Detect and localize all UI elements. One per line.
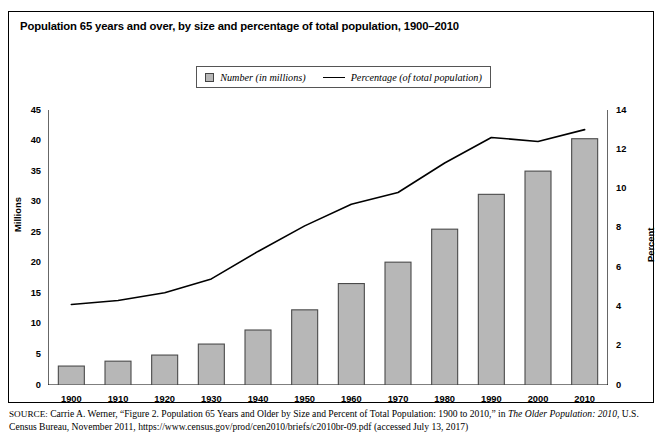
x-axis-tick: 1950 — [285, 394, 325, 404]
legend-label-number: Number (in millions) — [220, 72, 305, 83]
source-prefix: SOURCE: — [9, 409, 48, 419]
chart-legend: Number (in millions) Percentage (of tota… — [196, 66, 491, 88]
figure-screenshot: Population 65 years and over, by size an… — [0, 0, 664, 443]
x-axis-tick: 1970 — [378, 394, 418, 404]
y-axis-right-tick: 6 — [616, 262, 621, 272]
y-axis-right-label: Percent — [645, 228, 656, 262]
legend-swatch-icon — [205, 73, 214, 82]
legend-item-percentage: Percentage (of total population) — [323, 72, 482, 83]
y-axis-left-tick: 0 — [19, 380, 41, 390]
y-axis-right-tick: 10 — [616, 183, 626, 193]
x-axis-tick: 2000 — [518, 394, 558, 404]
y-axis-right-tick: 12 — [616, 144, 626, 154]
x-axis-tick: 1920 — [145, 394, 185, 404]
x-axis-tick: 1980 — [425, 394, 465, 404]
x-axis-tick: 1990 — [471, 394, 511, 404]
page-title: Population 65 years and over, by size an… — [20, 20, 620, 32]
y-axis-right-tick: 0 — [616, 380, 621, 390]
y-axis-left-tick: 25 — [19, 227, 41, 237]
y-axis-right-tick: 8 — [616, 222, 621, 232]
x-axis-tick: 1910 — [98, 394, 138, 404]
y-axis-right-tick: 14 — [616, 105, 626, 115]
x-axis-tick: 1960 — [331, 394, 371, 404]
y-axis-left-tick: 20 — [19, 257, 41, 267]
y-axis-left-tick: 5 — [19, 349, 41, 359]
source-italic-1: The Older Population: — [508, 408, 595, 419]
source-italic-2: 2010 — [598, 408, 617, 419]
chart-plot-area — [48, 110, 608, 385]
x-axis-tick: 1930 — [191, 394, 231, 404]
y-axis-left-tick: 15 — [19, 288, 41, 298]
y-axis-left-tick: 35 — [19, 166, 41, 176]
y-axis-right-tick: 2 — [616, 340, 621, 350]
y-axis-right-tick: 4 — [616, 301, 621, 311]
source-text-a: Carrie A. Werner, “Figure 2. Population … — [48, 408, 508, 419]
x-axis-tick: 1900 — [51, 394, 91, 404]
legend-item-number: Number (in millions) — [205, 72, 305, 83]
y-axis-left-tick: 10 — [19, 318, 41, 328]
legend-label-percentage: Percentage (of total population) — [351, 72, 482, 83]
source-note: SOURCE: Carrie A. Werner, “Figure 2. Pop… — [9, 408, 659, 433]
chart-svg — [48, 110, 608, 385]
y-axis-left-tick: 40 — [19, 135, 41, 145]
legend-line-icon — [323, 77, 345, 78]
y-axis-left-tick: 45 — [19, 105, 41, 115]
x-axis-tick: 2010 — [565, 394, 605, 404]
x-axis-tick: 1940 — [238, 394, 278, 404]
y-axis-left-tick: 30 — [19, 196, 41, 206]
